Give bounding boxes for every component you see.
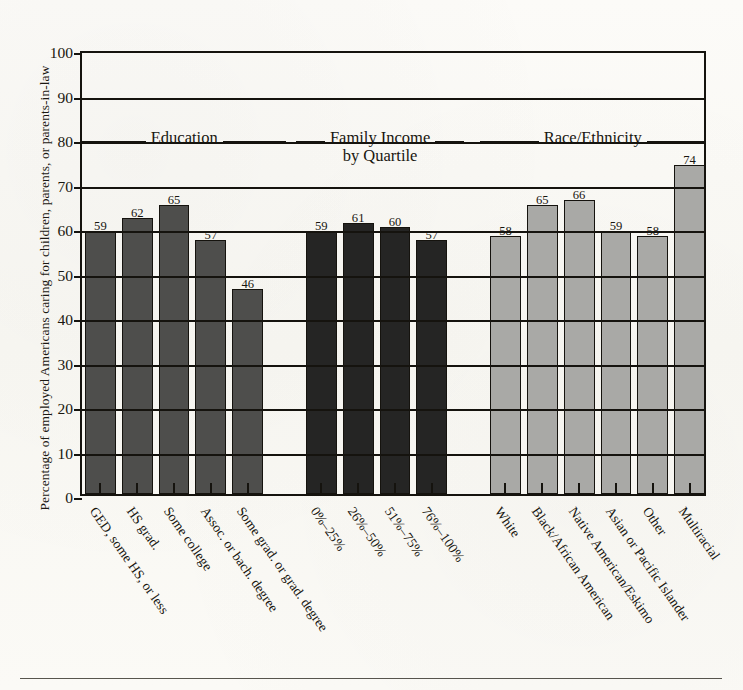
gridline-40 <box>82 320 704 322</box>
bar-value-label-asian-or-pacific-islander: 59 <box>610 221 623 236</box>
y-tick-mark-80 <box>74 142 82 144</box>
y-tick-mark-90 <box>74 98 82 100</box>
group-header-rule-right <box>435 141 464 143</box>
y-tick-mark-10 <box>74 454 82 456</box>
x-tick-label-multiracial: Multiracial <box>675 504 723 563</box>
y-tick-mark-70 <box>74 187 82 189</box>
bar-multiracial[interactable] <box>674 165 705 494</box>
x-tick-label-0-25: 0%–25% <box>307 504 349 554</box>
bar-slot: 46 <box>229 53 266 494</box>
y-tick-label-20: 20 <box>58 400 74 418</box>
gridline-60 <box>82 231 704 233</box>
x-tick-mark-asian-or-pacific-islander <box>615 483 617 494</box>
group-header-label: Family Incomeby Quartile <box>325 129 435 166</box>
group-header-rule-left <box>480 141 538 143</box>
bar-slot: 66 <box>561 53 598 494</box>
gridline-20 <box>82 409 704 411</box>
bar-value-label-native-american-eskimo: 66 <box>573 190 586 205</box>
y-tick-label-0: 0 <box>65 489 73 507</box>
y-tick-mark-0 <box>74 498 82 500</box>
figure-canvas: Percentage of employed Americans caring … <box>0 0 743 690</box>
y-tick-mark-30 <box>74 365 82 367</box>
x-tick-mark-hs-grad <box>136 483 138 494</box>
group-header-rule-left <box>296 141 325 143</box>
bar-slot: 57 <box>413 53 450 494</box>
gridline-50 <box>82 276 704 278</box>
x-tick-mark-other <box>652 483 654 494</box>
y-tick-label-60: 60 <box>58 222 74 240</box>
gridline-10 <box>82 454 704 456</box>
x-tick-label-hs-grad: HS grad. <box>123 504 164 553</box>
bar-native-american-eskimo[interactable] <box>564 200 595 494</box>
bar-black-african-american[interactable] <box>527 205 558 494</box>
bar-slot: 59 <box>598 53 635 494</box>
bar-value-label-hs-grad: 62 <box>131 208 144 223</box>
x-tick-label-76-100: 76%–100% <box>417 504 467 565</box>
x-tick-mark-51-75 <box>394 483 396 494</box>
x-tick-mark-some-college <box>173 483 175 494</box>
bar-value-label-multiracial: 74 <box>683 154 696 169</box>
bar-slot: 65 <box>156 53 193 494</box>
y-tick-label-80: 80 <box>58 133 74 151</box>
bar-slot: 60 <box>377 53 414 494</box>
x-tick-mark-ged-some-hs-or-less <box>99 483 101 494</box>
gridline-90 <box>82 98 704 100</box>
bar-value-label-26-50: 61 <box>352 212 365 227</box>
y-tick-mark-100 <box>74 53 82 55</box>
bar-slot: 61 <box>340 53 377 494</box>
bar-slot: 58 <box>634 53 671 494</box>
x-tick-mark-26-50 <box>357 483 359 494</box>
bar-slot: 59 <box>303 53 340 494</box>
bar-slot: 58 <box>487 53 524 494</box>
bar-slot: 65 <box>524 53 561 494</box>
bar-value-label-0-25: 59 <box>315 221 328 236</box>
group-header-education: Education <box>82 131 286 147</box>
group-header-family-income-by-quartile: Family Incomeby Quartile <box>296 131 464 166</box>
x-tick-mark-black-african-american <box>541 483 543 494</box>
bar-slot: 62 <box>119 53 156 494</box>
bar-value-label-51-75: 60 <box>389 216 402 231</box>
page-bottom-rule <box>20 678 722 679</box>
gridline-70 <box>82 187 704 189</box>
y-tick-mark-50 <box>74 276 82 278</box>
group-header-label: Race/Ethnicity <box>539 129 647 147</box>
y-tick-mark-20 <box>74 409 82 411</box>
group-separator-gap <box>266 53 303 494</box>
y-tick-label-100: 100 <box>50 44 73 62</box>
group-header-race-ethnicity: Race/Ethnicity <box>480 131 705 147</box>
bar-value-label-ged-some-hs-or-less: 59 <box>94 221 107 236</box>
bar-slot: 57 <box>192 53 229 494</box>
bar-slot: 74 <box>671 53 708 494</box>
group-separator-gap <box>450 53 487 494</box>
y-axis-title: Percentage of employed Americans caring … <box>37 0 53 588</box>
x-tick-mark-white <box>504 483 506 494</box>
x-axis-tick-labels: GED, some HS, or lessHS grad.Some colleg… <box>80 500 706 685</box>
bar-value-label-some-grad-or-grad-degree: 46 <box>241 279 254 294</box>
bars-layer: 596265574659616057586566595874 <box>82 53 704 494</box>
group-header-rule-left <box>82 141 146 143</box>
group-header-label: Education <box>146 129 223 147</box>
plot-area: 0102030405060708090100 59626557465961605… <box>80 51 706 496</box>
x-tick-label-white: White <box>491 504 523 541</box>
bar-76-100[interactable] <box>416 240 447 494</box>
x-tick-mark-76-100 <box>431 483 433 494</box>
y-tick-label-70: 70 <box>58 178 74 196</box>
y-tick-mark-40 <box>74 320 82 322</box>
bar-assoc-or-bach-degree[interactable] <box>195 240 226 494</box>
y-tick-label-30: 30 <box>58 356 74 374</box>
bar-some-college[interactable] <box>159 205 190 494</box>
group-header-rule-right <box>223 141 287 143</box>
x-tick-mark-native-american-eskimo <box>578 483 580 494</box>
bar-value-label-some-college: 65 <box>168 194 181 209</box>
y-tick-label-40: 40 <box>58 311 74 329</box>
x-tick-mark-multiracial <box>689 483 691 494</box>
x-tick-mark-0-25 <box>320 483 322 494</box>
y-tick-label-50: 50 <box>58 267 74 285</box>
y-tick-label-10: 10 <box>58 445 74 463</box>
bar-value-label-black-african-american: 65 <box>536 194 549 209</box>
x-tick-mark-assoc-or-bach-degree <box>210 483 212 494</box>
y-tick-label-90: 90 <box>58 89 74 107</box>
x-tick-label-other: Other <box>638 504 669 539</box>
x-tick-mark-some-grad-or-grad-degree <box>247 483 249 494</box>
group-header-label-line2: by Quartile <box>330 147 430 165</box>
